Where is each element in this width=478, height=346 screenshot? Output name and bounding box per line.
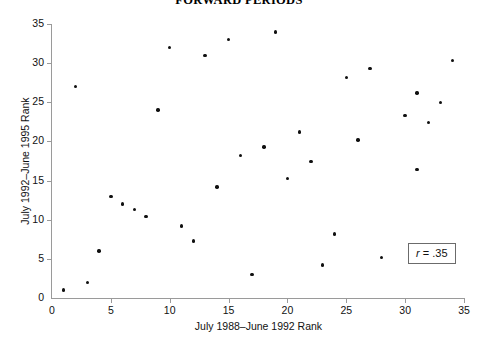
x-tick-label: 30 xyxy=(392,304,418,316)
data-point xyxy=(345,76,348,79)
x-tick-mark xyxy=(229,299,230,303)
data-point xyxy=(262,145,265,148)
y-tick-mark xyxy=(47,220,51,221)
x-tick-label: 10 xyxy=(157,304,183,316)
y-tick-label: 35 xyxy=(22,17,44,29)
data-point xyxy=(403,114,406,117)
x-tick-mark xyxy=(464,299,465,303)
data-point xyxy=(86,281,89,284)
y-tick-label: 0 xyxy=(22,291,44,303)
data-point xyxy=(156,108,159,111)
x-tick-mark xyxy=(287,299,288,303)
x-tick-mark xyxy=(170,299,171,303)
data-point xyxy=(250,273,253,276)
data-point xyxy=(298,130,301,133)
x-tick-mark xyxy=(405,299,406,303)
y-axis-title: July 1992–June 1995 Rank xyxy=(19,61,31,261)
correlation-value: .35 xyxy=(432,247,447,259)
data-point xyxy=(309,160,312,163)
data-point xyxy=(286,177,289,180)
data-point xyxy=(121,202,124,205)
data-point xyxy=(168,46,171,49)
x-axis-line xyxy=(52,298,465,299)
data-point xyxy=(215,185,218,188)
data-point xyxy=(356,138,359,141)
x-tick-label: 0 xyxy=(39,304,65,316)
x-tick-label: 25 xyxy=(333,304,359,316)
x-tick-label: 20 xyxy=(274,304,300,316)
x-axis-title: July 1988–June 1992 Rank xyxy=(52,320,465,332)
data-point xyxy=(109,195,112,198)
data-point xyxy=(180,224,183,227)
data-point xyxy=(144,215,147,218)
data-point xyxy=(133,208,136,211)
y-tick-mark xyxy=(47,181,51,182)
y-tick-mark xyxy=(47,259,51,260)
data-point xyxy=(74,85,77,88)
data-point xyxy=(380,256,383,259)
data-point xyxy=(415,91,418,94)
correlation-annotation-box: r = .35 xyxy=(408,243,456,264)
data-point xyxy=(62,288,65,291)
y-axis-line xyxy=(51,24,52,299)
scatter-plot-figure: FORWARD PERIODS 05101520253035 051015202… xyxy=(0,0,478,346)
chart-title: FORWARD PERIODS xyxy=(0,0,478,8)
data-point xyxy=(97,249,100,252)
y-tick-mark xyxy=(47,63,51,64)
x-tick-label: 5 xyxy=(98,304,124,316)
correlation-separator: = xyxy=(420,247,433,259)
y-tick-mark xyxy=(47,141,51,142)
data-point xyxy=(274,30,277,33)
data-point xyxy=(192,239,195,242)
data-point xyxy=(439,101,442,104)
x-tick-mark xyxy=(346,299,347,303)
y-tick-mark xyxy=(47,24,51,25)
data-point xyxy=(203,54,206,57)
data-point xyxy=(227,38,230,41)
x-tick-label: 35 xyxy=(451,304,477,316)
x-tick-mark xyxy=(111,299,112,303)
data-point xyxy=(333,232,336,235)
data-point xyxy=(239,154,242,157)
x-tick-label: 15 xyxy=(216,304,242,316)
data-point xyxy=(427,121,430,124)
data-point xyxy=(368,67,371,70)
y-tick-mark xyxy=(47,102,51,103)
data-point xyxy=(321,263,324,266)
data-point xyxy=(415,168,418,171)
data-point xyxy=(451,59,454,62)
